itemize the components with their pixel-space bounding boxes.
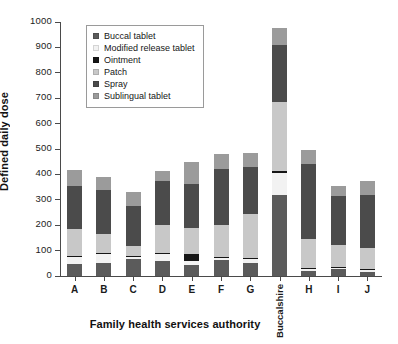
x-tick-mark — [162, 276, 163, 281]
bar-g[interactable] — [243, 22, 258, 276]
y-axis-label: Defined daily dose — [0, 92, 10, 191]
legend-item-buccal-tablet[interactable]: Buccal tablet — [93, 30, 195, 42]
y-tick-mark — [55, 174, 60, 175]
bar-segment[interactable] — [331, 269, 346, 276]
bar-i[interactable] — [331, 22, 346, 276]
y-tick-label: 0 — [47, 269, 52, 280]
bar-a[interactable] — [67, 22, 82, 276]
legend-item-spray[interactable]: Spray — [93, 78, 195, 90]
legend-item-label: Buccal tablet — [104, 30, 156, 42]
bar-segment[interactable] — [96, 234, 111, 253]
bar-h[interactable] — [301, 22, 316, 276]
y-tick-label: 200 — [36, 218, 52, 229]
x-tick-mark — [221, 276, 222, 281]
bar-segment[interactable] — [243, 167, 258, 214]
y-tick-mark — [55, 22, 60, 23]
x-tick-mark — [367, 276, 368, 281]
legend-swatch-icon — [93, 69, 99, 75]
y-tick-label: 100 — [36, 244, 52, 255]
legend-item-label: Spray — [104, 78, 128, 90]
x-tick-mark — [75, 276, 76, 281]
bar-segment[interactable] — [67, 229, 82, 256]
y-tick-label: 800 — [36, 66, 52, 77]
y-tick-mark — [55, 123, 60, 124]
bar-segment[interactable] — [184, 254, 199, 262]
bar-segment[interactable] — [126, 259, 141, 276]
bar-segment[interactable] — [360, 270, 375, 272]
bar-segment[interactable] — [96, 263, 111, 276]
bar-segment[interactable] — [96, 254, 111, 264]
bar-segment[interactable] — [243, 258, 258, 259]
bar-segment[interactable] — [243, 263, 258, 276]
y-tick-mark — [55, 47, 60, 48]
bar-segment[interactable] — [301, 239, 316, 268]
bar-segment[interactable] — [126, 192, 141, 205]
bar-j[interactable] — [360, 22, 375, 276]
bar-segment[interactable] — [155, 171, 170, 181]
bar-segment[interactable] — [360, 269, 375, 270]
bar-segment[interactable] — [184, 261, 199, 264]
bar-segment[interactable] — [214, 257, 229, 258]
legend-item-label: Sublingual tablet — [104, 90, 171, 102]
bar-f[interactable] — [214, 22, 229, 276]
bar-segment[interactable] — [184, 184, 199, 228]
bar-segment[interactable] — [272, 173, 287, 195]
y-tick-label: 500 — [36, 142, 52, 153]
bar-segment[interactable] — [184, 265, 199, 276]
bar-segment[interactable] — [214, 154, 229, 169]
y-tick-mark — [55, 276, 60, 277]
bar-segment[interactable] — [155, 225, 170, 253]
bar-segment[interactable] — [272, 45, 287, 102]
bar-segment[interactable] — [155, 254, 170, 260]
legend-item-sublingual-tablet[interactable]: Sublingual tablet — [93, 90, 195, 102]
bar-segment[interactable] — [272, 102, 287, 171]
bar-segment[interactable] — [272, 195, 287, 276]
bar-segment[interactable] — [214, 257, 229, 260]
bar-segment[interactable] — [272, 28, 287, 45]
bar-segment[interactable] — [96, 253, 111, 254]
bar-segment[interactable] — [331, 267, 346, 268]
bar-segment[interactable] — [272, 171, 287, 173]
x-tick-label-j: J — [347, 284, 387, 295]
bar-segment[interactable] — [301, 150, 316, 164]
bar-segment[interactable] — [214, 260, 229, 276]
bar-segment[interactable] — [67, 186, 82, 229]
bar-segment[interactable] — [331, 186, 346, 196]
bar-segment[interactable] — [331, 245, 346, 267]
legend-item-ointment[interactable]: Ointment — [93, 54, 195, 66]
legend-item-modified-release-tablet[interactable]: Modified release tablet — [93, 42, 195, 54]
bar-segment[interactable] — [301, 164, 316, 239]
bar-segment[interactable] — [126, 246, 141, 256]
bar-segment[interactable] — [360, 248, 375, 270]
bar-segment[interactable] — [243, 258, 258, 263]
bar-segment[interactable] — [155, 253, 170, 254]
bar-segment[interactable] — [126, 206, 141, 246]
bar-segment[interactable] — [301, 269, 316, 271]
legend-item-label: Modified release tablet — [104, 42, 195, 54]
bar-segment[interactable] — [214, 225, 229, 256]
bar-segment[interactable] — [67, 170, 82, 186]
bar-segment[interactable] — [96, 177, 111, 190]
bar-buccalshire[interactable] — [272, 22, 287, 276]
bar-segment[interactable] — [360, 181, 375, 195]
bar-segment[interactable] — [96, 190, 111, 234]
bar-segment[interactable] — [243, 153, 258, 166]
bar-segment[interactable] — [155, 181, 170, 225]
bar-segment[interactable] — [184, 228, 199, 253]
x-tick-mark — [192, 276, 193, 281]
bar-segment[interactable] — [67, 257, 82, 264]
bar-segment[interactable] — [126, 256, 141, 257]
y-tick-label: 600 — [36, 117, 52, 128]
bar-segment[interactable] — [67, 264, 82, 276]
bar-segment[interactable] — [126, 256, 141, 259]
legend-item-patch[interactable]: Patch — [93, 66, 195, 78]
bar-segment[interactable] — [67, 256, 82, 257]
bar-segment[interactable] — [301, 268, 316, 269]
bar-segment[interactable] — [360, 195, 375, 248]
bar-segment[interactable] — [331, 196, 346, 245]
x-tick-mark — [309, 276, 310, 281]
bar-segment[interactable] — [243, 214, 258, 258]
bar-segment[interactable] — [155, 261, 170, 276]
bar-segment[interactable] — [184, 162, 199, 184]
bar-segment[interactable] — [214, 169, 229, 225]
